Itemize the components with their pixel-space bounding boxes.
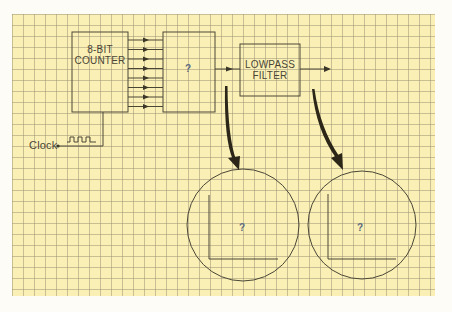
unknown-block-label: ?: [185, 63, 191, 74]
block-to-filter-arrowhead: [226, 67, 233, 72]
filter-label-line1: LOWPASS: [240, 59, 300, 70]
clock-wire: [58, 112, 103, 146]
filter-output-arrowhead: [324, 66, 331, 72]
clock-label: Clock: [29, 140, 58, 151]
callout-arrow-1-head: [228, 156, 240, 170]
filter-label: LOWPASS FILTER: [240, 59, 300, 81]
clock-waveform-icon: [67, 137, 96, 142]
counter-label-line1: 8-BIT: [72, 44, 128, 55]
callout-arrow-1: [225, 86, 236, 160]
filter-label-line2: FILTER: [240, 70, 300, 81]
callout-arrow-2: [312, 89, 339, 158]
counter-label-line2: COUNTER: [72, 55, 128, 66]
scope-1-label: ?: [239, 222, 245, 233]
scope-2-label: ?: [357, 222, 363, 233]
callout-arrow-2-head: [331, 153, 343, 170]
block-diagram: [0, 0, 452, 312]
counter-label: 8-BIT COUNTER: [72, 44, 128, 66]
